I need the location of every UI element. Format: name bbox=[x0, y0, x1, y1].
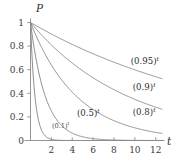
y-tick-label: 0.8 bbox=[10, 41, 25, 51]
y-tick-label: 0.4 bbox=[10, 89, 25, 99]
curve-label-base: (0.5) bbox=[77, 108, 97, 118]
curve-label-exponent: t bbox=[153, 81, 156, 88]
x-tick-label: 10 bbox=[129, 145, 141, 155]
curve-label-exponent: t bbox=[157, 55, 160, 62]
y-tick-label: 0 bbox=[18, 136, 24, 146]
curve-label-0: (0.95)t bbox=[131, 55, 160, 66]
curve-label-4: (0.1)t bbox=[52, 121, 70, 130]
x-tick-label: 12 bbox=[150, 145, 161, 155]
curve-label-base: (0.1) bbox=[52, 122, 68, 130]
curve-label-2: (0.8)t bbox=[133, 106, 156, 117]
y-tick-label: 1 bbox=[18, 18, 24, 28]
x-tick-labels-group: 24681012 bbox=[49, 145, 162, 155]
curve-label-exponent: t bbox=[68, 121, 70, 126]
chart-canvas: 00.20.40.60.81 24681012 Pt (0.95)t(0.9)t… bbox=[0, 0, 176, 164]
curve-label-base: (0.95) bbox=[131, 56, 157, 66]
curve-annotations-group: (0.95)t(0.9)t(0.8)t(0.5)t(0.1)t bbox=[52, 55, 160, 130]
exponential-decay-chart: 00.20.40.60.81 24681012 Pt (0.95)t(0.9)t… bbox=[0, 0, 176, 164]
x-axis-title: t bbox=[167, 135, 172, 147]
y-tick-label: 0.6 bbox=[10, 65, 25, 75]
y-axis-title: P bbox=[35, 2, 44, 14]
curve-label-3: (0.5)t bbox=[77, 107, 100, 118]
curve-label-1: (0.9)t bbox=[133, 81, 156, 92]
y-tick-label: 0.2 bbox=[10, 112, 24, 122]
x-tick-label: 6 bbox=[90, 145, 96, 155]
x-tick-label: 4 bbox=[69, 145, 75, 155]
curve-0-95 bbox=[31, 23, 163, 79]
curve-label-base: (0.8) bbox=[133, 107, 153, 117]
x-tick-label: 2 bbox=[49, 145, 55, 155]
y-tick-labels-group: 00.20.40.60.81 bbox=[10, 18, 25, 146]
axes-group bbox=[25, 19, 165, 141]
x-tick-label: 8 bbox=[111, 145, 117, 155]
curve-label-base: (0.9) bbox=[133, 82, 153, 92]
